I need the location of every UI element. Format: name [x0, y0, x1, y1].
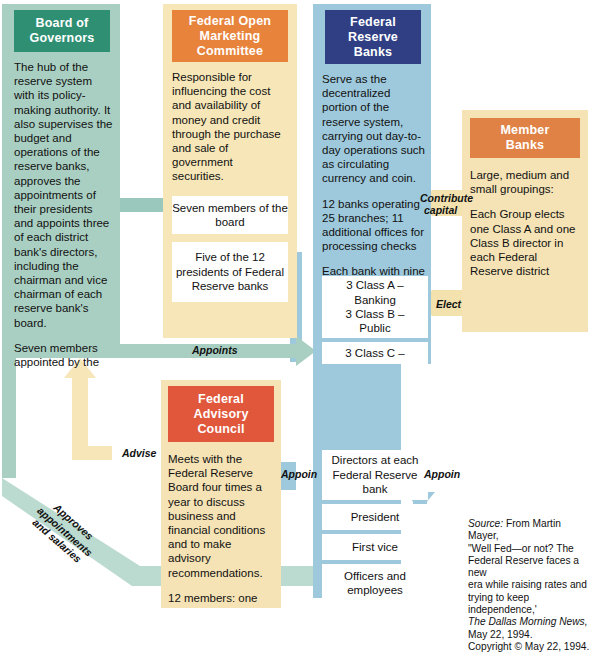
frb-header-line2: Reserve	[348, 30, 398, 45]
board-header-line2: Governors	[29, 31, 94, 46]
fomc-header-line2: Marketing	[189, 29, 271, 44]
fac-header-line3: Council	[193, 422, 248, 437]
header-federal-advisory-council: Federal Advisory Council	[168, 386, 274, 442]
frb-box-class-c: 3 Class C –	[322, 342, 428, 364]
label-elect: Elect	[436, 298, 461, 310]
header-member-banks: Member Banks	[470, 118, 580, 158]
member-header-line2: Banks	[500, 138, 549, 153]
frb-box-officers-employees: Officers and employees	[322, 564, 428, 602]
source-line6: May 22, 1994.	[468, 629, 533, 640]
band-appoints-vertical-left	[2, 352, 16, 478]
member-paragraph-2: Each Group elects one Class A and one Cl…	[470, 207, 582, 278]
fac-header-line1: Federal	[193, 392, 248, 407]
fomc-paragraph-1: Responsible for influencing the cost and…	[172, 70, 284, 184]
fomc-box-five-presidents: Five of the 12 presidents of Federal Res…	[172, 242, 288, 302]
class-c-text: 3 Class C –	[345, 346, 404, 360]
fomc-box-seven-members: Seven members of the board	[172, 196, 288, 234]
frb-body: Serve as the decentralized portion of th…	[322, 72, 428, 279]
board-paragraph-1: The hub of the reserve system with its p…	[14, 60, 114, 330]
source-line4: era while raising rates and	[468, 579, 587, 590]
fomc-body: Responsible for influencing the cost and…	[172, 70, 284, 184]
fac-paragraph-1: Meets with the Federal Reserve Board fou…	[168, 452, 274, 580]
frb-paragraph-2: 12 banks operating 25 branches; 11 addit…	[322, 197, 428, 254]
header-fomc: Federal Open Marketing Committee	[172, 10, 288, 62]
source-note: Source: From Martin Mayer, "Well Fed—or …	[468, 518, 592, 653]
source-line7: Copyright © May 22, 1994.	[468, 641, 589, 652]
fac-body: Meets with the Federal Reserve Board fou…	[168, 452, 274, 605]
fomc-box-1-text: Five of the 12 presidents of Federal Res…	[172, 250, 288, 293]
fac-header-line2: Advisory	[193, 407, 248, 422]
fomc-header-line1: Federal Open	[189, 14, 271, 29]
label-contribute-capital-line1: Contribute	[420, 192, 473, 204]
class-line-3: Public	[359, 321, 390, 335]
label-contribute-capital-line2: capital	[424, 204, 457, 216]
source-line5: trying to keep independence,'	[468, 592, 537, 615]
org-box-0-text: Directors at each Federal Reserve bank	[322, 453, 428, 496]
frb-box-directors: Directors at each Federal Reserve bank	[322, 450, 428, 500]
member-header-line1: Member	[500, 123, 549, 138]
member-paragraph-1: Large, medium and small groupings:	[470, 168, 582, 196]
frb-box-president: President	[322, 504, 428, 530]
source-line2: "Well Fed—or not? The	[468, 543, 574, 554]
source-label: Source:	[468, 518, 503, 529]
source-publication: The Dallas Morning News,	[468, 616, 587, 627]
frb-header-line1: Federal	[348, 15, 398, 30]
fac-paragraph-2: 12 members: one	[168, 591, 274, 605]
label-advise: Advise	[122, 447, 156, 459]
label-appoints: Appoints	[192, 344, 238, 356]
source-line3: Federal Reserve faces a new	[468, 555, 579, 578]
org-box-2-text: First vice	[352, 540, 398, 554]
class-line-2: 3 Class B –	[346, 307, 405, 321]
fomc-box-0-text: Seven members of the board	[172, 201, 288, 230]
board-paragraph-2: Seven members appointed by the	[14, 341, 114, 369]
board-of-governors-body: The hub of the reserve system with its p…	[14, 60, 114, 369]
class-line-0: 3 Class A –	[346, 278, 404, 292]
label-appoin-right: Appoin	[424, 468, 460, 480]
member-banks-body: Large, medium and small groupings: Each …	[470, 168, 582, 278]
frb-paragraph-1: Serve as the decentralized portion of th…	[322, 72, 428, 186]
org-box-3-text: Officers and employees	[322, 569, 428, 598]
class-line-1: Banking	[354, 293, 396, 307]
header-federal-reserve-banks: Federal Reserve Banks	[325, 10, 421, 64]
arrow-advise-fac-to-board	[64, 358, 112, 460]
board-header-line1: Board of	[29, 16, 94, 31]
frb-box-class-ab: 3 Class A – Banking 3 Class B – Public	[322, 276, 428, 338]
fomc-header-line3: Committee	[189, 44, 271, 59]
label-approves-appointments-and-salaries: Approves appointments and salaries	[11, 481, 119, 581]
frb-header-line3: Banks	[348, 45, 398, 60]
org-box-1-text: President	[351, 510, 400, 524]
header-board-of-governors: Board of Governors	[14, 10, 110, 52]
label-appoin-center: Appoin	[281, 468, 317, 480]
frb-box-first-vice: First vice	[322, 534, 428, 560]
